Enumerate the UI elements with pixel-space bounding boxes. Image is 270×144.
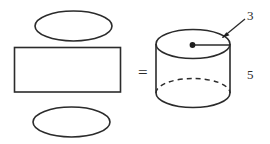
height-label: 5 (247, 67, 254, 82)
net-top-circle (35, 11, 112, 41)
net-lateral-rectangle (15, 48, 121, 93)
cylinder-group: 3 5 (156, 8, 254, 108)
figure-canvas: = 3 5 (0, 0, 270, 144)
net-bottom-circle (33, 107, 110, 137)
equals-sign: = (138, 63, 148, 82)
cylinder-bottom-back-arc-dashed (156, 79, 230, 94)
radius-label: 3 (247, 8, 254, 23)
cylinder-center-dot (190, 42, 196, 48)
geometry-diagram: = 3 5 (0, 0, 270, 144)
cylinder-bottom-front-arc (156, 93, 230, 108)
cylinder-net-group (15, 11, 121, 137)
